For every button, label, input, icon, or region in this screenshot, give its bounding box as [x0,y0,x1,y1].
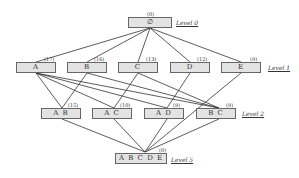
node-D: D [170,62,210,73]
level-2-label: Level 2 [242,110,264,117]
edge-A-AB [36,73,62,108]
level-5-label: Level 5 [171,156,193,163]
node-AC: A C [92,108,132,119]
edge-AB-ABCDE [62,119,145,152]
node-AD: A D [144,108,184,119]
node-root: ∅ [128,17,172,28]
level-1-label: Level 1 [268,64,290,71]
node-A: A [16,62,56,73]
node-C: C [118,62,158,73]
edge-root-E [150,28,241,62]
node-ABCDE: A B C D E [115,153,167,164]
level-0-label: Level 0 [176,19,198,26]
edge-B-BC [87,73,219,108]
node-AB: A B [41,108,81,119]
node-E: E [221,62,261,73]
node-BC: B C [196,108,236,119]
node-B: B [67,62,107,73]
edge-AC-ABCDE [114,119,145,152]
